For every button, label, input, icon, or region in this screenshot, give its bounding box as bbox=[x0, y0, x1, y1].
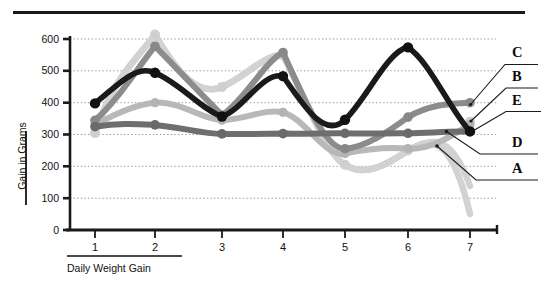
y-tick-label-200: 200 bbox=[29, 160, 59, 172]
legend-label-C: C bbox=[512, 44, 522, 61]
y-tick-label-0: 0 bbox=[29, 224, 59, 236]
x-axis-caption-rule bbox=[67, 255, 182, 257]
x-tick-label-6: 6 bbox=[398, 241, 418, 253]
y-tick-label-300: 300 bbox=[29, 128, 59, 140]
x-tick-label-2: 2 bbox=[145, 241, 165, 253]
series-line-A bbox=[90, 98, 474, 158]
y-axis bbox=[63, 36, 70, 231]
x-tick-label-1: 1 bbox=[85, 241, 105, 253]
x-tick-label-5: 5 bbox=[335, 241, 355, 253]
y-tick-label-600: 600 bbox=[29, 33, 59, 45]
chart-page: 600 500 400 300 200 100 0 1 2 3 4 5 6 7 … bbox=[0, 0, 541, 283]
legend-label-E: E bbox=[512, 92, 522, 109]
leader-line-E bbox=[472, 112, 541, 132]
y-tick-label-100: 100 bbox=[29, 192, 59, 204]
legend-label-D: D bbox=[512, 134, 522, 151]
x-tick-label-4: 4 bbox=[273, 241, 293, 253]
y-tick-label-500: 500 bbox=[29, 64, 59, 76]
series-line-D bbox=[90, 120, 475, 139]
legend-label-B: B bbox=[512, 68, 522, 85]
x-axis bbox=[66, 225, 497, 238]
legend-label-A: A bbox=[512, 160, 522, 177]
x-tick-label-7: 7 bbox=[460, 241, 480, 253]
x-tick-label-3: 3 bbox=[212, 241, 232, 253]
x-axis-caption: Daily Weight Gain bbox=[67, 262, 151, 274]
y-axis-title: Gain in Grams bbox=[16, 110, 28, 202]
y-tick-label-400: 400 bbox=[29, 96, 59, 108]
